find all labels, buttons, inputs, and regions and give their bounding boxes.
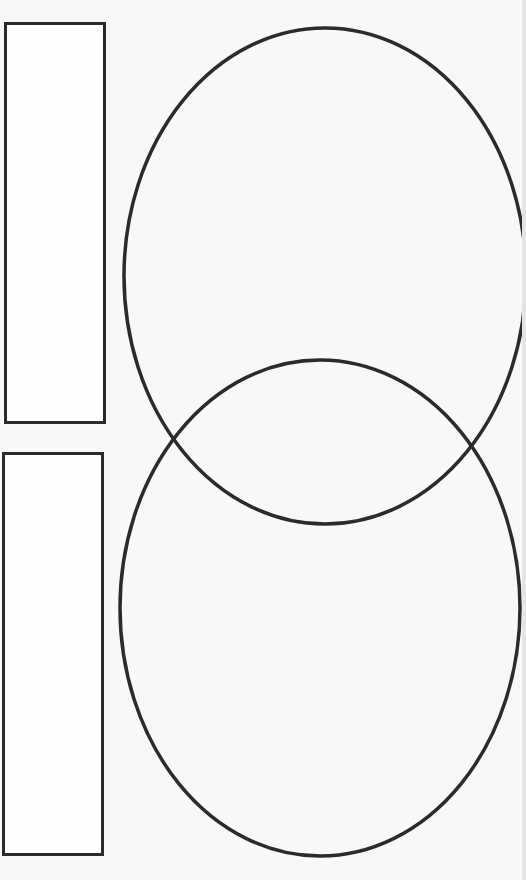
venn-diagram xyxy=(0,0,526,880)
bottom-set-ellipse[interactable] xyxy=(120,360,520,856)
page-edge xyxy=(522,0,526,880)
top-set-ellipse[interactable] xyxy=(124,28,526,524)
